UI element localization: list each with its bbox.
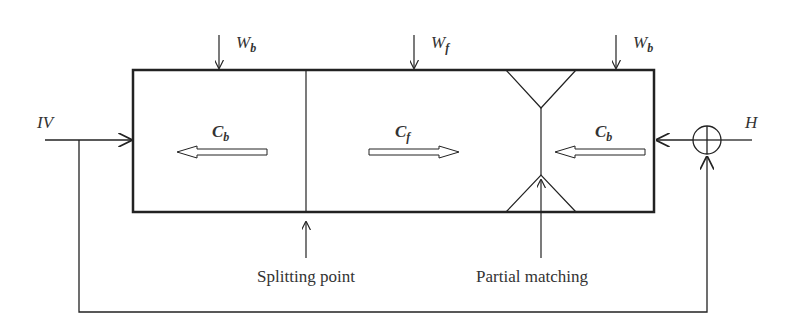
summing-junction-icon	[693, 126, 721, 154]
c-b-left-label: Cb	[212, 122, 229, 144]
c-f-label: Cf	[395, 122, 411, 144]
feedback-loop	[79, 140, 707, 312]
iv-label: IV	[36, 113, 56, 132]
w-b-right-label: Wb	[633, 33, 653, 55]
diagram-canvas: Wb Wf Wb IV H Cb Cf Cb Splitting point P…	[0, 0, 800, 329]
partial-matching-label: Partial matching	[476, 267, 588, 286]
c-f-flow-arrow	[369, 146, 459, 158]
process-box	[133, 70, 654, 212]
c-b-right-flow-arrow	[555, 146, 645, 158]
w-f-label: Wf	[431, 33, 450, 55]
c-b-right-label: Cb	[595, 122, 612, 144]
c-b-left-flow-arrow	[177, 146, 267, 158]
h-label: H	[744, 113, 759, 132]
splitting-point-label: Splitting point	[257, 267, 355, 286]
w-b-left-label: Wb	[236, 33, 256, 55]
